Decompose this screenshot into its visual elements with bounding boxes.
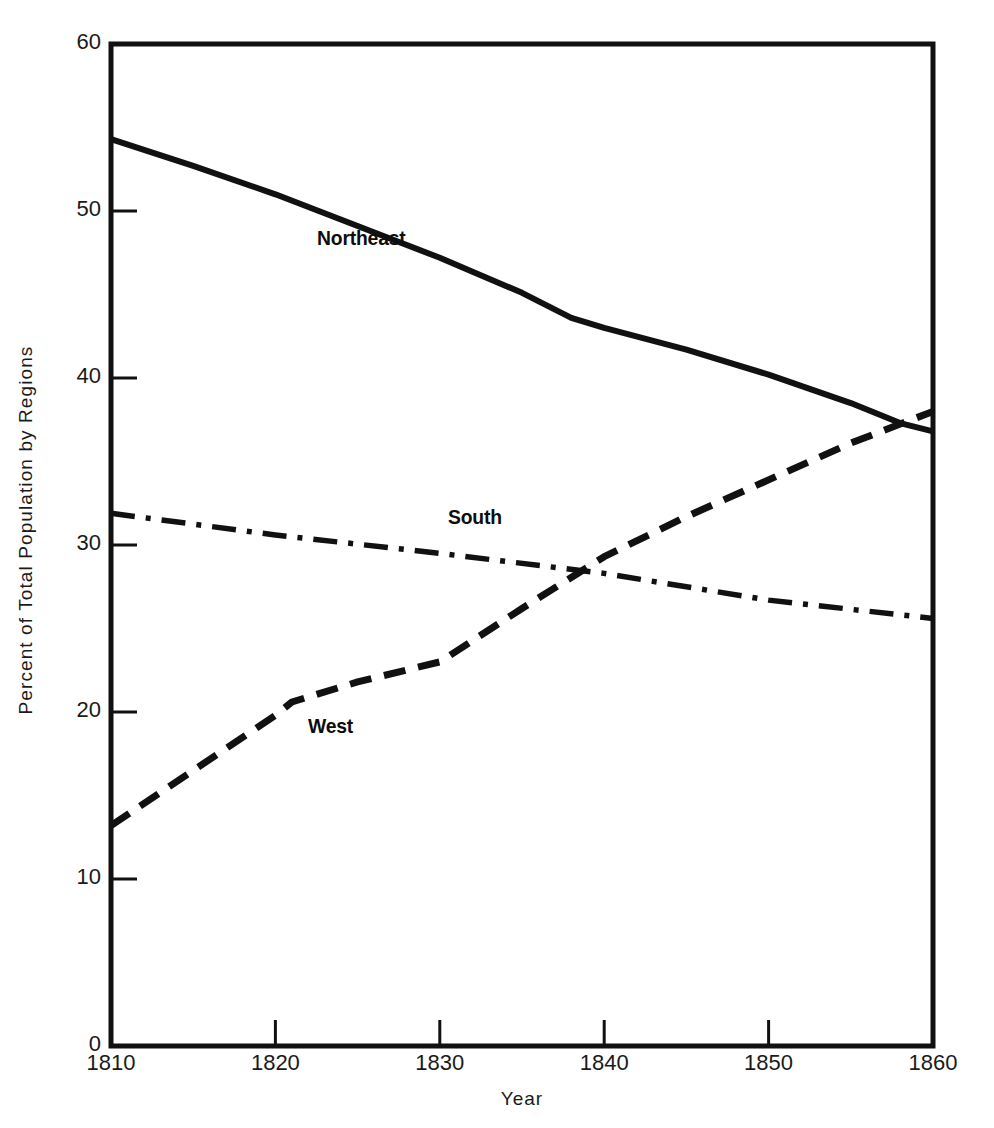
x-axis-title: Year bbox=[111, 1088, 933, 1110]
x-tick-label-1850: 1850 bbox=[709, 1052, 829, 1074]
plot-canvas bbox=[0, 0, 994, 1128]
series-line-south bbox=[111, 513, 933, 618]
x-tick-label-1830: 1830 bbox=[380, 1052, 500, 1074]
plot-frame bbox=[111, 44, 933, 1046]
data-series bbox=[111, 139, 933, 825]
axis-ticks bbox=[111, 211, 769, 1046]
series-label-west: West bbox=[308, 714, 353, 738]
x-tick-label-1820: 1820 bbox=[215, 1052, 335, 1074]
series-line-northeast bbox=[111, 139, 933, 431]
chart-figure: Percent of Total Population by Regions 0… bbox=[0, 0, 994, 1128]
x-tick-label-1860: 1860 bbox=[873, 1052, 993, 1074]
x-tick-label-1810: 1810 bbox=[51, 1052, 171, 1074]
plot-border bbox=[111, 44, 933, 1046]
series-line-west bbox=[111, 411, 933, 825]
series-label-south: South bbox=[448, 505, 502, 529]
x-tick-label-1840: 1840 bbox=[544, 1052, 664, 1074]
series-label-northeast: Northeast bbox=[317, 226, 406, 250]
